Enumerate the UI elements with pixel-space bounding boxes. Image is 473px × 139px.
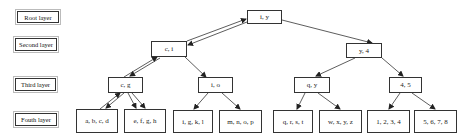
node-label: w, x, y, z (328, 118, 353, 126)
layer-label-fourth: Fouth layer (15, 113, 57, 126)
node-label: i, o (211, 81, 220, 89)
node-label: 5, 6, 7, 8 (423, 118, 448, 126)
node-label: q, r, s, t (283, 118, 304, 126)
tree-node-third-4: 4, 5 (389, 77, 422, 93)
layer-label-text: Second layer (19, 41, 53, 48)
tree-node-second-1: c, i (151, 41, 187, 57)
node-label: c, i (165, 45, 174, 53)
node-label: m, n, o, p (227, 118, 253, 126)
tree-node-third-2: i, o (198, 77, 233, 93)
node-label: 4, 5 (400, 81, 411, 89)
node-label: 1, 2, 3, 4 (376, 118, 401, 126)
tree-node-root: i, y (247, 10, 282, 24)
node-label: c, g (120, 81, 130, 89)
tree-leaf-1: a, b, c, d (76, 109, 118, 133)
layer-label-second: Second layer (15, 38, 57, 51)
layer-label-root: Root layer (17, 11, 59, 23)
node-label: i, y (260, 13, 269, 21)
layer-label-third: Third layer (15, 78, 56, 91)
tree-leaf-3: i, g, k, l (173, 110, 213, 133)
tree-node-third-1: c, g (108, 77, 143, 93)
tree-node-second-2: y, 4 (346, 43, 382, 58)
tree-leaf-8: 5, 6, 7, 8 (414, 110, 457, 133)
tree-leaf-5: q, r, s, t (273, 110, 313, 133)
node-label: i, g, k, l (182, 118, 203, 126)
node-label: a, b, c, d (85, 117, 109, 125)
tree-leaf-7: 1, 2, 3, 4 (367, 110, 410, 133)
tree-node-third-3: q, y (294, 77, 330, 93)
tree-leaf-4: m, n, o, p (219, 110, 262, 133)
node-label: y, 4 (359, 47, 369, 55)
node-label: e, f, g, h (134, 117, 157, 125)
layer-label-text: Root layer (24, 14, 51, 21)
layer-label-text: Fouth layer (21, 116, 51, 123)
node-label: q, y (307, 81, 318, 89)
tree-leaf-6: w, x, y, z (319, 110, 362, 133)
tree-leaf-2: e, f, g, h (124, 109, 166, 133)
layer-label-text: Third layer (21, 81, 50, 88)
